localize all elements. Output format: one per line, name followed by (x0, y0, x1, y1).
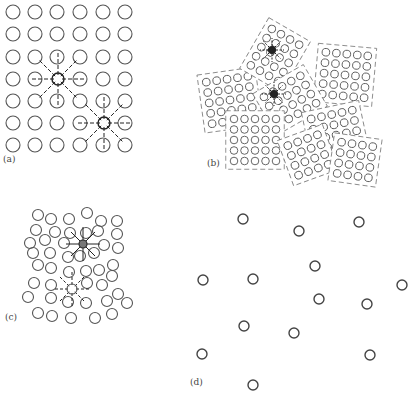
atom-circle (112, 216, 123, 227)
atom-circle (23, 292, 34, 303)
atom-circle (96, 216, 107, 227)
atom-circle (31, 225, 42, 236)
atom-circle (28, 94, 42, 108)
atom-circle (122, 298, 133, 309)
atom-circle (362, 299, 372, 309)
atom-circle (93, 226, 104, 237)
atom-circle (47, 311, 58, 322)
atom-circle (50, 138, 64, 152)
atom-circle (96, 94, 110, 108)
panel-c-label: (c) (5, 312, 17, 322)
atom-circle (50, 50, 64, 64)
defect-displacement-line (61, 61, 77, 77)
defect-displacement-line (86, 232, 95, 241)
atom-circle (50, 227, 61, 238)
atom-circle (33, 308, 44, 319)
atom-circle (46, 293, 57, 304)
grain-boundary (313, 43, 376, 106)
atom-circle (73, 27, 87, 41)
atom-circle (73, 138, 87, 152)
defect-atom (269, 47, 276, 54)
atom-circle (113, 243, 124, 254)
defect-atom (79, 240, 87, 248)
panel-d-gas (197, 214, 407, 390)
atom-circle (118, 138, 132, 152)
atom-circle (33, 210, 44, 221)
atom-circle (6, 138, 20, 152)
atom-circle (365, 350, 375, 360)
atom-circle (397, 280, 407, 290)
atom-circle (6, 72, 20, 86)
panel-b-polycrystal (197, 18, 382, 187)
grain-boundary (226, 111, 285, 170)
panel-d-label: (d) (190, 377, 203, 387)
atom-circle (248, 380, 258, 390)
atom-circle (96, 72, 110, 86)
atom-circle (59, 238, 70, 249)
atom-circle (198, 275, 208, 285)
atom-circle (89, 248, 100, 259)
atom-circle (97, 280, 108, 291)
defect-displacement-line (75, 277, 84, 286)
atom-circle (45, 248, 56, 259)
atom-circle (64, 267, 75, 278)
atom-circle (118, 50, 132, 64)
defect-displacement-line (75, 292, 84, 301)
atom-circle (28, 5, 42, 19)
atom-circle (289, 328, 299, 338)
panel-a-label: (a) (3, 154, 15, 164)
atom-circle (107, 271, 118, 282)
defect-atom (67, 284, 77, 294)
defect-atom (271, 91, 278, 98)
atom-circle (197, 349, 207, 359)
atom-circle (96, 5, 110, 19)
defect-displacement-line (71, 247, 80, 256)
crystal-grain (226, 111, 285, 170)
atom-circle (29, 278, 40, 289)
atom-circle (28, 27, 42, 41)
atom-circle (50, 27, 64, 41)
atom-circle (96, 138, 110, 152)
atom-circle (28, 138, 42, 152)
atom-circle (50, 116, 64, 130)
atom-circle (96, 27, 110, 41)
atom-circle (6, 50, 20, 64)
atom-circle (118, 5, 132, 19)
atom-circle (248, 274, 258, 284)
atom-circle (28, 248, 39, 259)
atom-circle (75, 251, 86, 262)
atom-circle (354, 217, 364, 227)
atom-circle (6, 27, 20, 41)
atom-circle (238, 214, 248, 224)
atom-circle (118, 27, 132, 41)
crystal-grain (313, 43, 376, 106)
atom-circle (66, 313, 77, 324)
atom-circle (99, 240, 110, 251)
atom-circle (63, 252, 74, 263)
atom-circle (6, 5, 20, 19)
atom-circle (64, 214, 75, 225)
atom-circle (108, 260, 119, 271)
atom-circle (28, 50, 42, 64)
atom-circle (310, 261, 320, 271)
atom-circle (94, 265, 105, 276)
atom-circle (25, 238, 36, 249)
panel-c-amorphous (23, 208, 133, 324)
atom-circle (118, 72, 132, 86)
atom-circle (239, 321, 249, 331)
atom-circle (314, 294, 324, 304)
atom-circle (46, 214, 57, 225)
atom-circle (50, 94, 64, 108)
crystal-grain (328, 133, 382, 187)
atom-circle (107, 309, 118, 320)
atom-circle (46, 263, 57, 274)
atom-circle (96, 50, 110, 64)
atom-circle (46, 280, 57, 291)
atom-circle (6, 94, 20, 108)
atom-circle (6, 116, 20, 130)
atom-circle (73, 5, 87, 19)
atom-circle (65, 228, 76, 239)
atom-circle (90, 313, 101, 324)
defect-displacement-line (61, 82, 77, 98)
atom-circle (28, 116, 42, 130)
